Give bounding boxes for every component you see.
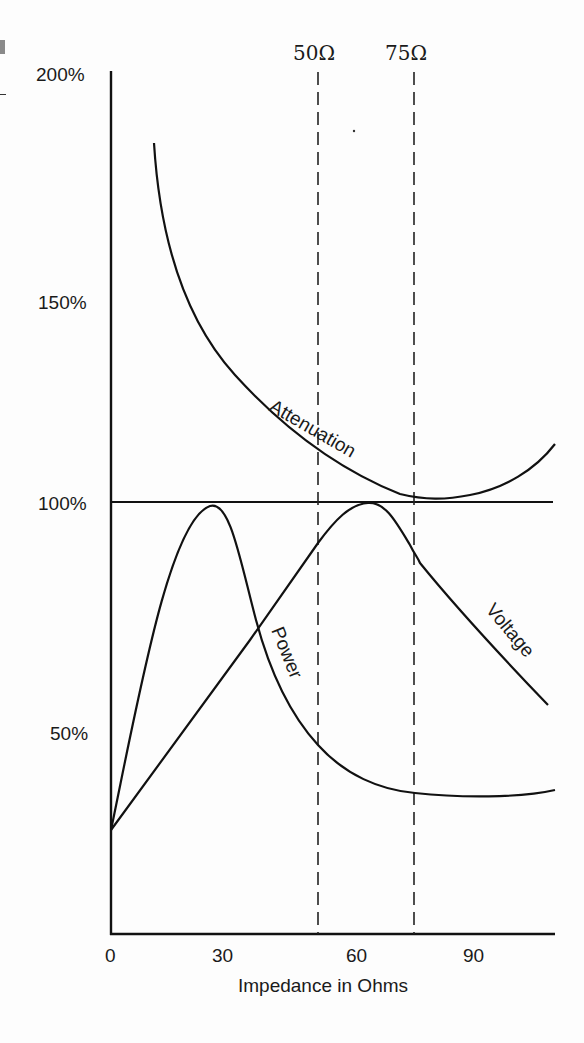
ohm-label-75: 75Ω — [385, 41, 427, 65]
x-axis-label: Impedance in Ohms — [238, 975, 408, 996]
x-tick-60: 60 — [346, 945, 367, 966]
x-tick-90: 90 — [463, 945, 484, 966]
y-tick-150: 150% — [38, 292, 87, 313]
y-tick-100: 100% — [38, 493, 87, 514]
x-tick-0: 0 — [105, 945, 116, 966]
power-curve — [111, 506, 555, 830]
scan-artifact-dot — [353, 130, 355, 132]
ohm-label-50: 50Ω — [293, 41, 335, 65]
y-tick-50: 50% — [50, 723, 88, 744]
y-tick-200: 200% — [36, 64, 85, 85]
attenuation-label: Attenuation — [266, 395, 360, 461]
voltage-label: Voltage — [482, 599, 539, 661]
impedance-chart: 200% 150% 100% 50% 0 30 60 90 Impedance … — [0, 0, 584, 1043]
x-tick-30: 30 — [212, 945, 233, 966]
voltage-curve — [111, 503, 548, 830]
